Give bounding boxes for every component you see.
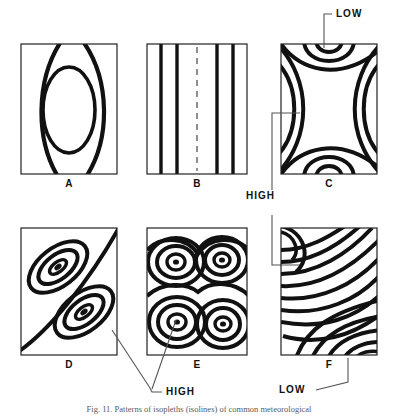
panel-b-contours [161,44,233,174]
annotation-low-top: LOW [336,8,362,19]
panel-label-a: A [54,178,84,189]
panel-label-f: F [314,359,344,370]
annotation-high-middle: HIGH [246,190,275,201]
panel-label-d: D [54,359,84,370]
leader-low-top [324,14,332,48]
panel-f-contours [281,226,381,358]
panel-label-b: B [182,178,212,189]
panel-a-contours [41,40,104,180]
panel-label-e: E [182,359,212,370]
leader-high-bottom [112,320,176,392]
panel-d-contours [18,226,122,352]
figure-canvas [0,0,396,418]
annotation-low-bottom: LOW [279,384,305,395]
panel-c-contours [277,40,381,178]
figure-contour-patterns: A B C D E F LOW HIGH HIGH LOW Fig. 11. P… [0,0,396,418]
annotation-high-bottom: HIGH [166,386,195,397]
figure-caption: Fig. 11. Patterns of isopleths (isolines… [18,404,380,418]
panel-e-contours [147,237,249,348]
panel-label-c: C [314,178,344,189]
